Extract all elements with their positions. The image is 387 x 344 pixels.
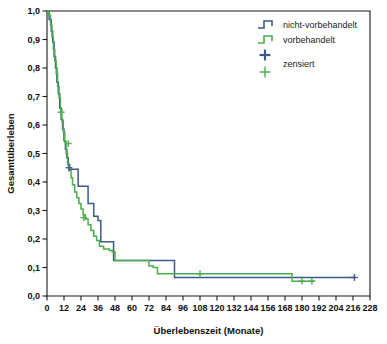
x-tick-label: 108 bbox=[192, 303, 207, 313]
x-tick-label: 36 bbox=[93, 303, 103, 313]
x-tick-label: 204 bbox=[328, 303, 343, 313]
x-tick-label: 72 bbox=[144, 303, 154, 313]
y-tick-label: 0,4 bbox=[27, 177, 40, 187]
x-tick-label: 228 bbox=[362, 303, 377, 313]
x-tick-label: 0 bbox=[44, 303, 49, 313]
x-tick-label: 84 bbox=[161, 303, 171, 313]
y-tick-label: 0,5 bbox=[27, 149, 40, 159]
x-tick-label: 216 bbox=[345, 303, 360, 313]
x-tick-label: 132 bbox=[226, 303, 241, 313]
x-tick-label: 48 bbox=[110, 303, 120, 313]
legend-label: vorbehandelt bbox=[283, 35, 336, 45]
kaplan-meier-chart: 0,00,10,20,30,40,50,60,70,80,91,0 012243… bbox=[0, 0, 387, 344]
y-tick-label: 0,1 bbox=[27, 263, 40, 273]
y-tick-label: 1,0 bbox=[27, 6, 40, 16]
legend-label: zensiert bbox=[283, 59, 315, 69]
x-tick-label: 12 bbox=[59, 303, 69, 313]
x-tick-label: 24 bbox=[76, 303, 86, 313]
x-tick-label: 144 bbox=[243, 303, 258, 313]
x-tick-label: 96 bbox=[178, 303, 188, 313]
x-tick-label: 156 bbox=[260, 303, 275, 313]
y-tick-label: 0,9 bbox=[27, 35, 40, 45]
y-tick-label: 0,7 bbox=[27, 92, 40, 102]
y-tick-label: 0,3 bbox=[27, 206, 40, 216]
chart-svg: 0,00,10,20,30,40,50,60,70,80,91,0 012243… bbox=[0, 0, 387, 344]
x-tick-label: 192 bbox=[311, 303, 326, 313]
chart-background bbox=[0, 0, 387, 344]
x-tick-label: 60 bbox=[127, 303, 137, 313]
y-tick-label: 0,8 bbox=[27, 63, 40, 73]
legend-label: nicht-vorbehandelt bbox=[283, 20, 358, 30]
y-tick-label: 0,6 bbox=[27, 120, 40, 130]
x-tick-label: 180 bbox=[294, 303, 309, 313]
x-tick-label: 120 bbox=[209, 303, 224, 313]
x-tick-label: 168 bbox=[277, 303, 292, 313]
y-tick-label: 0,2 bbox=[27, 234, 40, 244]
y-axis-title: Gesamtüberleben bbox=[5, 113, 16, 193]
x-axis-title: Überlebenszeit (Monate) bbox=[154, 325, 264, 336]
y-tick-label: 0,0 bbox=[27, 291, 40, 301]
